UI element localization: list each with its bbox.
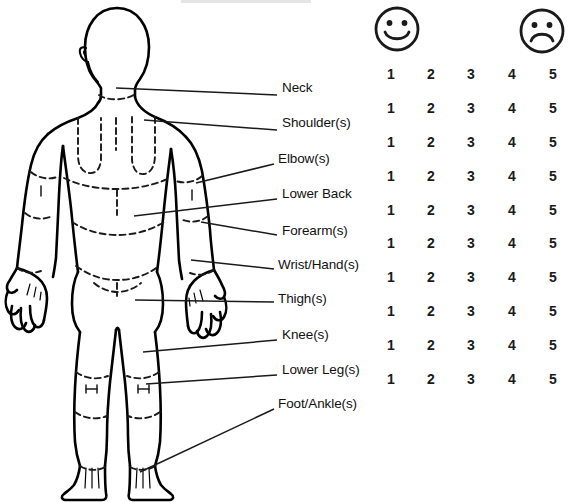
label-lower-leg[interactable]: Lower Leg(s) (282, 363, 360, 377)
rating-option-4[interactable]: 4 (501, 66, 523, 82)
label-forearm[interactable]: Forearm(s) (282, 224, 348, 238)
rating-option-3[interactable]: 3 (460, 303, 482, 319)
rating-option-1[interactable]: 1 (380, 66, 402, 82)
rating-option-1[interactable]: 1 (380, 371, 402, 387)
body-outline-rear-view-icon (0, 0, 250, 502)
rating-option-3[interactable]: 3 (460, 100, 482, 116)
label-wrist-hand[interactable]: Wrist/Hand(s) (278, 258, 359, 272)
rating-option-2[interactable]: 2 (420, 269, 442, 285)
rating-option-2[interactable]: 2 (420, 66, 442, 82)
label-foot-ankle[interactable]: Foot/Ankle(s) (278, 397, 357, 411)
rating-row: 12345 (372, 303, 577, 337)
rating-option-4[interactable]: 4 (501, 235, 523, 251)
rating-option-4[interactable]: 4 (501, 100, 523, 116)
rating-option-3[interactable]: 3 (460, 269, 482, 285)
rating-option-3[interactable]: 3 (460, 66, 482, 82)
rating-option-5[interactable]: 5 (542, 303, 564, 319)
rating-option-1[interactable]: 1 (380, 100, 402, 116)
body-diagram-panel (0, 0, 250, 502)
rating-row: 12345 (372, 202, 577, 236)
rating-option-3[interactable]: 3 (460, 202, 482, 218)
rating-grid: 1234512345123451234512345123451234512345… (372, 66, 577, 405)
rating-row: 12345 (372, 371, 577, 405)
rating-row: 12345 (372, 100, 577, 134)
rating-option-1[interactable]: 1 (380, 134, 402, 150)
rating-option-2[interactable]: 2 (420, 337, 442, 353)
rating-option-5[interactable]: 5 (542, 100, 564, 116)
label-elbow[interactable]: Elbow(s) (278, 152, 330, 166)
body-discomfort-survey-page: Neck Shoulder(s) Elbow(s) Lower Back For… (0, 0, 577, 502)
rating-option-4[interactable]: 4 (501, 337, 523, 353)
rating-option-1[interactable]: 1 (380, 303, 402, 319)
rating-option-5[interactable]: 5 (542, 235, 564, 251)
rating-option-5[interactable]: 5 (542, 371, 564, 387)
rating-row: 12345 (372, 235, 577, 269)
rating-option-5[interactable]: 5 (542, 168, 564, 184)
rating-row: 12345 (372, 134, 577, 168)
rating-option-5[interactable]: 5 (542, 269, 564, 285)
rating-option-2[interactable]: 2 (420, 100, 442, 116)
rating-option-5[interactable]: 5 (542, 66, 564, 82)
rating-option-3[interactable]: 3 (460, 134, 482, 150)
rating-row: 12345 (372, 269, 577, 303)
rating-option-1[interactable]: 1 (380, 235, 402, 251)
rating-option-1[interactable]: 1 (380, 202, 402, 218)
rating-option-1[interactable]: 1 (380, 337, 402, 353)
label-lower-back[interactable]: Lower Back (282, 187, 352, 201)
rating-row: 12345 (372, 66, 577, 100)
rating-option-4[interactable]: 4 (501, 303, 523, 319)
rating-option-1[interactable]: 1 (380, 168, 402, 184)
discomfort-rating-scale-panel: 1234512345123451234512345123451234512345… (372, 0, 577, 502)
rating-option-2[interactable]: 2 (420, 168, 442, 184)
rating-option-2[interactable]: 2 (420, 371, 442, 387)
label-shoulder[interactable]: Shoulder(s) (282, 116, 351, 130)
rating-option-2[interactable]: 2 (420, 303, 442, 319)
rating-option-5[interactable]: 5 (542, 202, 564, 218)
rating-option-2[interactable]: 2 (420, 134, 442, 150)
rating-option-3[interactable]: 3 (460, 168, 482, 184)
label-neck[interactable]: Neck (282, 81, 312, 95)
rating-option-3[interactable]: 3 (460, 235, 482, 251)
rating-row: 12345 (372, 337, 577, 371)
rating-option-3[interactable]: 3 (460, 337, 482, 353)
rating-option-3[interactable]: 3 (460, 371, 482, 387)
rating-option-4[interactable]: 4 (501, 202, 523, 218)
rating-option-2[interactable]: 2 (420, 235, 442, 251)
label-thigh[interactable]: Thigh(s) (278, 292, 327, 306)
rating-option-5[interactable]: 5 (542, 134, 564, 150)
rating-option-4[interactable]: 4 (501, 134, 523, 150)
label-knee[interactable]: Knee(s) (282, 328, 329, 342)
rating-option-4[interactable]: 4 (501, 371, 523, 387)
rating-option-1[interactable]: 1 (380, 269, 402, 285)
rating-option-4[interactable]: 4 (501, 269, 523, 285)
rating-option-5[interactable]: 5 (542, 337, 564, 353)
rating-option-2[interactable]: 2 (420, 202, 442, 218)
smiley-sad-face-icon (517, 6, 567, 56)
smiley-happy-face-icon (372, 4, 422, 54)
rating-row: 12345 (372, 168, 577, 202)
rating-option-4[interactable]: 4 (501, 168, 523, 184)
